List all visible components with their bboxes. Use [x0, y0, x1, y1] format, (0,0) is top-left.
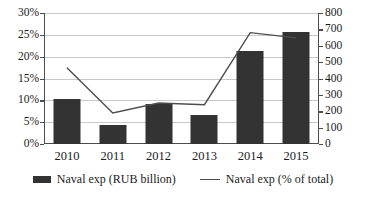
- ytick-left-20: 20%: [18, 51, 39, 63]
- tickmark-right-100: [319, 128, 323, 129]
- ytick-right-600: 600: [325, 40, 342, 52]
- ytick-right-400: 400: [325, 73, 342, 85]
- bar-slot-2014: [227, 13, 273, 144]
- tickmark-left-15: [40, 79, 44, 80]
- bar-2015: [283, 32, 310, 144]
- ytick-right-100: 100: [325, 122, 342, 134]
- bar-slot-2010: [44, 13, 90, 144]
- bar-2013: [191, 115, 218, 144]
- legend-label-bar: Naval exp (RUB billion): [57, 172, 176, 186]
- ytick-right-700: 700: [325, 23, 342, 35]
- bar-slot-2012: [136, 13, 182, 144]
- bar-2011: [99, 125, 126, 144]
- xlabel-2011: 2011: [90, 147, 136, 165]
- tickmark-right-0: [319, 144, 323, 145]
- tickmark-left-25: [40, 35, 44, 36]
- bar-slot-2011: [90, 13, 136, 144]
- tickmark-right-700: [319, 29, 323, 30]
- bar-slot-2015: [273, 13, 319, 144]
- tickmark-right-200: [319, 111, 323, 112]
- tickmark-left-30: [40, 13, 44, 14]
- legend-item-line: Naval exp (% of total): [200, 172, 333, 186]
- xlabel-2010: 2010: [44, 147, 90, 165]
- ytick-right-500: 500: [325, 56, 342, 68]
- tickmark-right-300: [319, 95, 323, 96]
- ytick-left-10: 10%: [18, 94, 39, 106]
- xlabel-2012: 2012: [136, 147, 182, 165]
- tickmark-left-5: [40, 122, 44, 123]
- ytick-right-800: 800: [325, 7, 342, 19]
- tickmark-left-20: [40, 57, 44, 58]
- ytick-left-25: 25%: [18, 29, 39, 41]
- x-axis-labels: 2010 2011 2012 2013 2014 2015: [44, 147, 319, 165]
- ytick-right-0: 0: [325, 138, 331, 150]
- ytick-left-30: 30%: [18, 7, 39, 19]
- tickmark-right-600: [319, 46, 323, 47]
- legend-label-line: Naval exp (% of total): [226, 172, 333, 186]
- tickmark-right-400: [319, 79, 323, 80]
- ytick-left-15: 15%: [18, 73, 39, 85]
- ytick-left-0: 0%: [24, 138, 39, 150]
- tickmark-left-10: [40, 100, 44, 101]
- chart-container: 30% 25% 20% 15% 10% 5% 0% 800 700 600 50…: [0, 0, 366, 200]
- line-swatch-icon: [200, 179, 220, 180]
- bar-swatch-icon: [33, 176, 51, 183]
- xlabel-2013: 2013: [181, 147, 227, 165]
- ytick-right-200: 200: [325, 105, 342, 117]
- bar-2010: [53, 99, 80, 144]
- bar-slot-2013: [182, 13, 228, 144]
- chart-legend: Naval exp (RUB billion) Naval exp (% of …: [0, 172, 366, 186]
- tickmark-right-500: [319, 62, 323, 63]
- bar-2014: [237, 51, 264, 144]
- ytick-left-5: 5%: [24, 116, 39, 128]
- tickmark-left-0: [40, 144, 44, 145]
- bar-series-naval-exp-rub-billion: [44, 13, 319, 144]
- xlabel-2014: 2014: [227, 147, 273, 165]
- tickmark-right-800: [319, 13, 323, 14]
- xlabel-2015: 2015: [273, 147, 319, 165]
- bar-2012: [145, 104, 172, 144]
- legend-item-bar: Naval exp (RUB billion): [33, 172, 176, 186]
- ytick-right-300: 300: [325, 89, 342, 101]
